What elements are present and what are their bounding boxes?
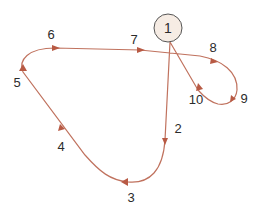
arrow-5 xyxy=(19,64,27,71)
waypoint-label-6: 6 xyxy=(47,27,54,42)
waypoint-label-10: 10 xyxy=(189,92,203,107)
arrow-6 xyxy=(52,45,60,51)
arrow-2 xyxy=(162,138,168,145)
waypoint-label-9: 9 xyxy=(240,91,247,106)
loop-path xyxy=(22,42,237,182)
arrow-3 xyxy=(121,178,128,186)
start-node-label: 1 xyxy=(164,20,172,36)
waypoint-label-4: 4 xyxy=(57,139,64,154)
loop-diagram: 1 2 3 4 5 6 7 8 9 10 xyxy=(0,0,259,212)
arrow-7 xyxy=(137,47,145,53)
start-node: 1 xyxy=(154,14,182,42)
waypoint-label-7: 7 xyxy=(130,32,137,47)
waypoint-label-2: 2 xyxy=(174,121,181,136)
waypoint-label-8: 8 xyxy=(209,40,216,55)
waypoint-label-5: 5 xyxy=(13,75,20,90)
arrow-10 xyxy=(196,83,203,91)
waypoint-label-3: 3 xyxy=(127,190,134,205)
